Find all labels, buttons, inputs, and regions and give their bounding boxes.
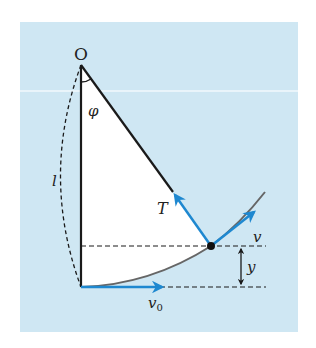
angle-label: φ (88, 102, 99, 120)
length-label: l (52, 172, 57, 190)
velocity-label: v (253, 228, 262, 246)
height-label: y (246, 258, 256, 276)
pendulum-diagram: O φ l T v y v0 (0, 0, 316, 348)
tension-label: T (157, 199, 169, 218)
pendulum-bob (207, 242, 215, 250)
pivot-label: O (74, 44, 88, 64)
